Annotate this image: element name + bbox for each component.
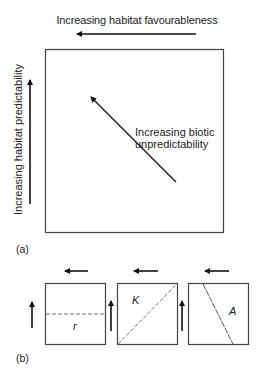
panel-a-label: (a) [16,243,29,255]
diagonal-label-line1: Increasing biotic [135,126,215,138]
box-a-letter: A [229,305,236,317]
diagram-canvas [0,0,260,377]
box-r-letter: r [73,320,77,332]
panel-b-label: (b) [16,352,29,364]
diagonal-label-line2: unpredictability [135,138,215,150]
box-k-letter: K [132,294,139,306]
box-k-divider [118,284,177,344]
y-axis-label: Increasing habitat predictability [12,64,24,215]
x-axis-label: Increasing habitat favourableness [0,14,260,26]
diagonal-label: Increasing biotic unpredictability [135,126,215,150]
